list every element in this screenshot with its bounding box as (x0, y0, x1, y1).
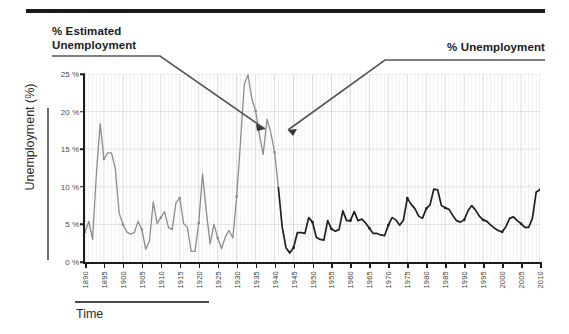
x-axis-tick-mark (445, 262, 447, 268)
x-axis-tick-label: 1905 (138, 271, 147, 289)
chart-canvas (85, 74, 540, 262)
x-axis-tick-mark (521, 262, 523, 268)
x-axis-tick-label: 1915 (176, 271, 185, 289)
x-axis-tick-label: 1910 (157, 271, 166, 289)
x-axis-tick-mark (388, 262, 390, 268)
y-axis-title: Unemployment (%) (23, 62, 37, 212)
data-point-marker (520, 222, 522, 224)
x-axis-tick-mark (237, 262, 239, 268)
x-axis-tick-mark (426, 262, 428, 268)
data-point-marker (444, 207, 446, 209)
x-axis-tick-label: 2010 (536, 271, 545, 289)
y-axis-tick-label: 0 % (65, 258, 85, 267)
x-axis-tick-label: 1980 (422, 271, 431, 289)
x-axis-tick-mark (104, 262, 106, 268)
data-point-marker (160, 216, 162, 218)
x-axis-tick-mark (294, 262, 296, 268)
data-point-marker (425, 207, 427, 209)
x-axis-tick-mark (350, 262, 352, 268)
x-axis-tick-mark (123, 262, 125, 268)
series-line-estimated (85, 75, 278, 252)
x-axis-tick-mark (331, 262, 333, 268)
x-axis-tick-mark (464, 262, 466, 268)
x-axis-tick-label: 1970 (384, 271, 393, 289)
data-point-marker (141, 228, 143, 230)
series-line-official (278, 188, 540, 253)
x-axis-tick-label: 1960 (346, 271, 355, 289)
x-axis-tick-label: 1975 (403, 271, 412, 289)
data-point-marker (349, 219, 351, 221)
x-axis-tick-mark (275, 262, 277, 268)
x-axis-tick-label: 1945 (290, 271, 299, 289)
x-axis-tick-label: 2005 (517, 271, 526, 289)
estimated-series-annotation-line2: Unemployment (52, 38, 136, 52)
x-axis-tick-mark (313, 262, 315, 268)
x-axis-tick-label: 1985 (441, 271, 450, 289)
x-axis-tick-mark (407, 262, 409, 268)
x-axis-tick-mark (369, 262, 371, 268)
x-axis-tick-mark (180, 262, 182, 268)
data-point-marker (368, 227, 370, 229)
x-axis-tick-label: 1930 (233, 271, 242, 289)
y-axis-tick-label: 10 % (61, 182, 85, 191)
y-axis-tick-label: 20 % (61, 107, 85, 116)
x-axis-tick-label: 1935 (252, 271, 261, 289)
y-axis-tick-label: 25 % (61, 70, 85, 79)
x-axis-tick-label: 1940 (271, 271, 280, 289)
x-axis-tick-label: 1920 (195, 271, 204, 289)
estimated-series-annotation-line1: % Estimated (52, 24, 136, 38)
y-axis-tick-label: 5 % (65, 220, 85, 229)
x-axis-tick-mark (199, 262, 201, 268)
y-axis-tick-label: 15 % (61, 145, 85, 154)
figure-root: % Estimated Unemployment % Unemployment … (0, 0, 569, 334)
data-point-marker (292, 247, 294, 249)
x-axis-tick-mark (540, 262, 542, 268)
plot-area: 0 %5 %10 %15 %20 %25 %189018951900190519… (85, 74, 540, 262)
x-axis-tick-mark (85, 262, 87, 268)
data-point-marker (406, 197, 408, 199)
x-axis-tick-mark (256, 262, 258, 268)
data-point-marker (179, 197, 181, 199)
data-point-marker (387, 224, 389, 226)
data-point-marker (122, 223, 124, 225)
data-point-marker (273, 151, 275, 153)
x-axis-tick-label: 1890 (81, 271, 90, 289)
data-point-marker (235, 195, 237, 197)
estimated-series-annotation-label: % Estimated Unemployment (52, 24, 136, 52)
data-point-marker (330, 228, 332, 230)
x-axis-tick-label: 1990 (460, 271, 469, 289)
data-point-marker (103, 158, 105, 160)
data-point-marker (501, 231, 503, 233)
y-axis-bracket (47, 108, 49, 260)
x-axis-tick-label: 2000 (498, 271, 507, 289)
x-axis-tick-mark (502, 262, 504, 268)
data-point-marker (217, 237, 219, 239)
x-axis-tick-label: 1955 (327, 271, 336, 289)
data-point-marker (254, 110, 256, 112)
data-point-marker (463, 219, 465, 221)
x-axis-tick-mark (483, 262, 485, 268)
top-rule-divider (26, 9, 545, 13)
data-point-marker (539, 189, 540, 191)
x-axis-tick-mark (142, 262, 144, 268)
x-axis-title: Time (76, 307, 103, 321)
data-point-marker (311, 221, 313, 223)
data-point-marker (198, 222, 200, 224)
x-axis-tick-label: 1965 (365, 271, 374, 289)
data-point-marker (85, 231, 86, 233)
x-axis-tick-mark (218, 262, 220, 268)
data-point-marker (482, 219, 484, 221)
x-axis-tick-label: 1900 (119, 271, 128, 289)
x-axis-tick-label: 1895 (100, 271, 109, 289)
official-series-annotation-label: % Unemployment (447, 40, 545, 54)
x-axis-tick-label: 1950 (309, 271, 318, 289)
x-axis-tick-label: 1995 (479, 271, 488, 289)
x-axis-bracket (75, 301, 209, 303)
x-axis-tick-label: 1925 (214, 271, 223, 289)
x-axis-tick-mark (161, 262, 163, 268)
